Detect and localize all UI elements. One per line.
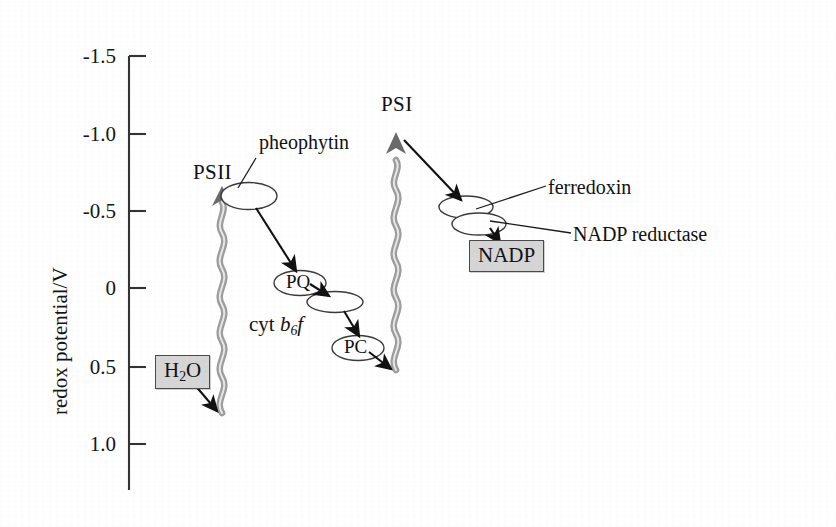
nadp-box: NADP: [469, 240, 544, 272]
psi-excitation-squiggle: [386, 132, 406, 370]
leader-ferredoxin: [476, 186, 546, 209]
psii-excitation-squiggle: [212, 186, 232, 413]
axis-tick-label: -1.5: [58, 44, 116, 69]
psii-label: PSII: [193, 160, 232, 185]
pheophytin-ellipse: [221, 183, 277, 210]
cytb6f-label: cyt b6f: [249, 312, 303, 339]
axis-tick-label: -0.5: [58, 199, 116, 224]
nadp-reductase-ellipse: [452, 213, 506, 235]
y-axis: [129, 56, 146, 490]
arrow-pheophytin-to-pq: [256, 208, 296, 271]
pc-label: PC: [344, 336, 367, 358]
z-scheme-figure: -1.5 -1.0 -0.5 0 0.5 1.0 redox potential…: [0, 0, 836, 527]
water-label-main: H: [164, 358, 179, 382]
axis-tick-label: -1.0: [58, 122, 116, 147]
water-box: H2O: [155, 355, 210, 389]
water-label-tail: O: [186, 358, 201, 382]
nadp-reductase-label: NADP reductase: [573, 223, 707, 246]
y-axis-title: redox potential/V: [48, 267, 73, 415]
cytb6f-b: b: [280, 312, 291, 336]
ferredoxin-label: ferredoxin: [548, 176, 631, 199]
pheophytin-label: pheophytin: [259, 131, 349, 154]
arrow-cytb6f-to-pc: [344, 311, 359, 336]
z-scheme-canvas: [0, 0, 836, 527]
cytb6f-prefix: cyt: [249, 312, 280, 336]
cytb6f-f: f: [297, 312, 303, 336]
psi-label: PSI: [381, 92, 413, 117]
arrow-psi-to-ferredoxin: [404, 140, 461, 200]
pq-label: PQ: [286, 271, 310, 293]
cytb6f-ellipse: [307, 292, 363, 313]
axis-tick-label: 1.0: [58, 432, 116, 457]
